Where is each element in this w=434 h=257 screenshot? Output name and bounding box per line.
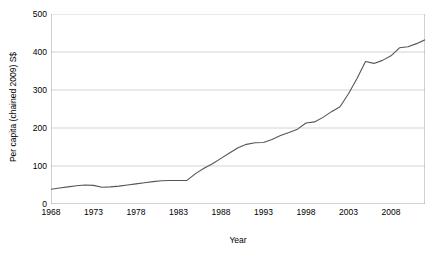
- x-tick-label: 1983: [159, 208, 199, 217]
- x-tick-label: 1968: [31, 208, 71, 217]
- chart-container: Per capita (chained 2009) S$ 50040030020…: [0, 0, 434, 257]
- x-tick-label: 1998: [286, 208, 326, 217]
- x-tick-label: 1978: [116, 208, 156, 217]
- x-tick-label: 1973: [74, 208, 114, 217]
- x-axis-tick-labels: 196819731978198319881993199820032008: [0, 0, 434, 257]
- x-tick-label: 2008: [371, 208, 411, 217]
- x-tick-label: 2003: [329, 208, 369, 217]
- x-tick-label: 1993: [244, 208, 284, 217]
- x-axis-title: Year: [51, 235, 425, 245]
- x-tick-label: 1988: [201, 208, 241, 217]
